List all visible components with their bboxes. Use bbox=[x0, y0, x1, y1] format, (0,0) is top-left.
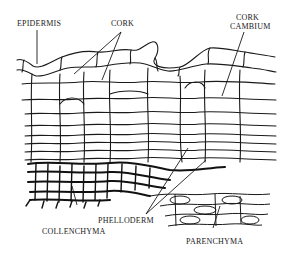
label-cork-cambium-line2: CAMBIUM bbox=[230, 22, 271, 31]
label-cork-cambium-line1: CORK bbox=[236, 13, 259, 22]
periderm-diagram: EPIDERMIS CORK CORK CAMBIUM PHELLODERM C… bbox=[0, 0, 284, 256]
label-epidermis: EPIDERMIS bbox=[17, 19, 61, 28]
label-collenchyma: COLLENCHYMA bbox=[42, 227, 106, 236]
label-phelloderm: PHELLODERM bbox=[98, 216, 154, 225]
label-cork: CORK bbox=[111, 19, 134, 28]
label-parenchyma: PARENCHYMA bbox=[186, 237, 243, 246]
